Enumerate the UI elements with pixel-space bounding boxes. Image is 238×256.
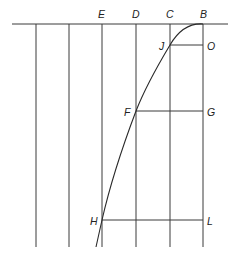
diagram-canvas: E D C B J O F G H L [0, 0, 238, 256]
curve-bjfh [96, 24, 203, 247]
label-b: B [200, 8, 207, 20]
label-o: O [207, 40, 215, 52]
label-e: E [98, 8, 106, 20]
label-h: H [90, 215, 98, 227]
label-d: D [132, 8, 140, 20]
label-g: G [207, 106, 215, 118]
label-c: C [166, 8, 174, 20]
label-f: F [124, 106, 131, 118]
label-j: J [158, 40, 165, 52]
label-l: L [207, 215, 213, 227]
